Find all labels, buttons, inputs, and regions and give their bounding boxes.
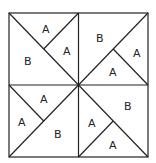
label-tr-right: A xyxy=(133,47,141,60)
label-br-left: A xyxy=(88,117,96,130)
label-bl-top: A xyxy=(40,93,48,106)
label-bl-left: A xyxy=(18,116,26,129)
label-br-right: B xyxy=(124,100,132,113)
label-br-bottom: A xyxy=(109,139,117,152)
label-bl-bottom: B xyxy=(54,128,62,141)
quilt-block-diagram: A A B B A A A A B B A A xyxy=(0,0,156,163)
br-half-diagonal xyxy=(79,121,114,157)
label-tl-right: A xyxy=(63,45,71,58)
bl-half-diagonal xyxy=(9,85,44,121)
label-tr-bottom: A xyxy=(109,66,117,79)
label-tl-top: A xyxy=(42,23,50,36)
tr-half-diagonal xyxy=(113,49,148,85)
label-tr-top: B xyxy=(96,32,104,45)
label-tl-left: B xyxy=(24,55,32,68)
